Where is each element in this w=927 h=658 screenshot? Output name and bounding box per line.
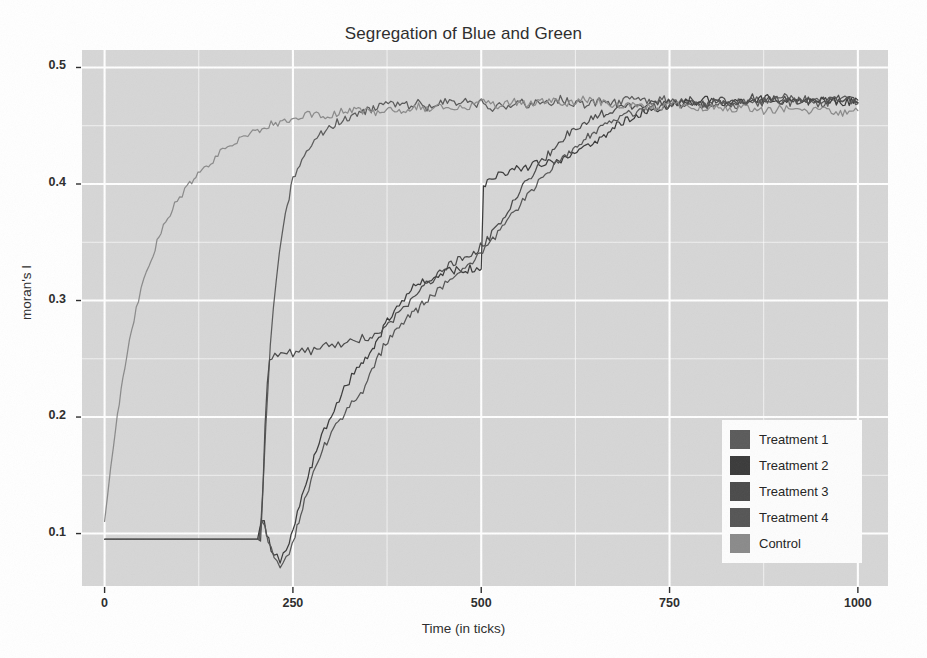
legend-item[interactable]: Control <box>730 530 801 556</box>
legend-swatch-icon <box>730 430 750 449</box>
chart-figure: Segregation of Blue and Green moran's I … <box>0 0 927 658</box>
legend-swatch-icon <box>730 534 750 553</box>
legend-item-label: Treatment 3 <box>759 484 829 499</box>
legend-item-label: Control <box>759 536 801 551</box>
legend-item-label: Treatment 4 <box>759 510 829 525</box>
legend-item[interactable]: Treatment 1 <box>730 426 829 452</box>
legend-item[interactable]: Treatment 4 <box>730 504 829 530</box>
legend-swatch-icon <box>730 482 750 501</box>
legend-item[interactable]: Treatment 2 <box>730 452 829 478</box>
legend-swatch-icon <box>730 456 750 475</box>
legend-item[interactable]: Treatment 3 <box>730 478 829 504</box>
legend-item-label: Treatment 1 <box>759 432 829 447</box>
legend-item-label: Treatment 2 <box>759 458 829 473</box>
chart-legend: Treatment 1Treatment 2Treatment 3Treatme… <box>722 420 862 563</box>
legend-swatch-icon <box>730 508 750 527</box>
